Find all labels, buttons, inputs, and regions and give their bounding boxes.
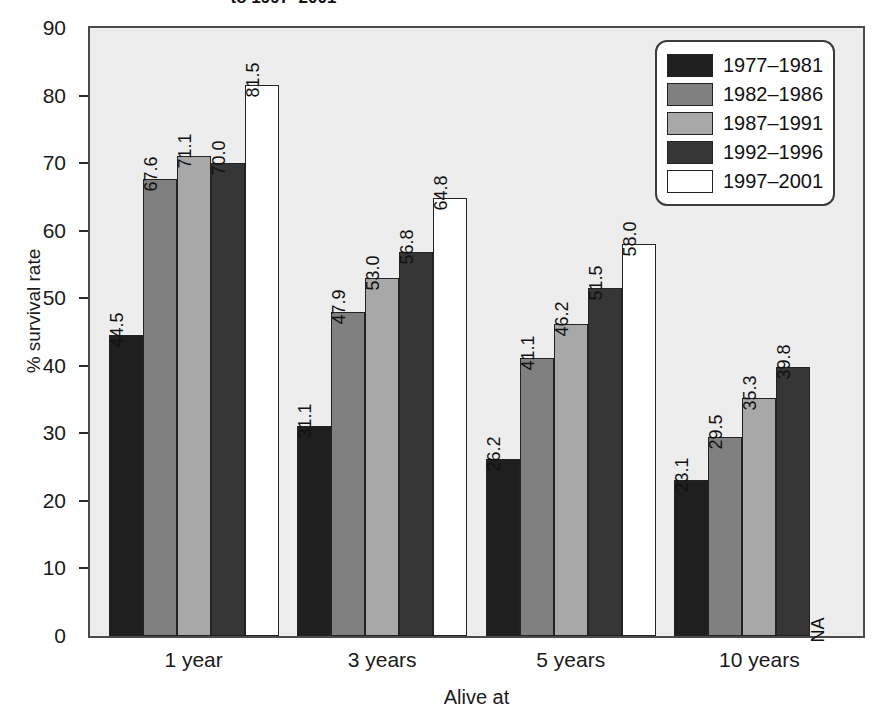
bar-value-label: 70.0 [210, 141, 228, 176]
bar-value-label: 53.0 [364, 255, 382, 290]
bar: 53.0 [365, 278, 399, 636]
bar: 51.5 [588, 288, 622, 636]
na-label: NA [809, 617, 827, 642]
legend-item: 1997–2001 [667, 167, 823, 195]
bar-value-label: 46.2 [553, 301, 571, 336]
y-tick-mark [79, 432, 88, 434]
bar-value-label: 47.9 [330, 290, 348, 325]
bar: 70.0 [211, 163, 245, 636]
bar-value-label: 51.5 [587, 266, 605, 301]
legend-item: 1992–1996 [667, 138, 823, 166]
y-tick-label: 10 [22, 557, 66, 578]
survival-rate-bar-chart: to 1997–2001 % survival rate 01020304050… [0, 0, 877, 714]
x-tick-label: 3 years [302, 648, 462, 672]
bar-value-label: 58.0 [621, 222, 639, 257]
legend-label: 1982–1986 [723, 83, 823, 106]
na-marker: NA [810, 566, 844, 636]
legend-swatch [667, 83, 713, 106]
y-tick-label: 30 [22, 422, 66, 443]
chart-title-clipped: to 1997–2001 [0, 0, 877, 4]
legend-label: 1992–1996 [723, 141, 823, 164]
y-tick-label: 20 [22, 490, 66, 511]
bar: 26.2 [486, 459, 520, 636]
x-tick-label: 1 year [114, 648, 274, 672]
bar-group: 26.241.146.251.558.0 [486, 28, 656, 636]
legend-label: 1977–1981 [723, 54, 823, 77]
bar-value-label: 41.1 [519, 336, 537, 371]
legend-label: 1997–2001 [723, 170, 823, 193]
bar-group: 44.567.671.170.081.5 [109, 28, 279, 636]
bar-value-label: 67.6 [142, 157, 160, 192]
y-tick-mark [79, 162, 88, 164]
bar-value-label: 56.8 [398, 230, 416, 265]
bar: 58.0 [622, 244, 656, 636]
bar-value-label: 39.8 [775, 345, 793, 380]
bar: 81.5 [245, 85, 279, 636]
legend-item: 1982–1986 [667, 80, 823, 108]
x-tick-label: 5 years [491, 648, 651, 672]
bar: 39.8 [776, 367, 810, 636]
y-tick-mark [79, 567, 88, 569]
y-tick-label: 80 [22, 85, 66, 106]
y-tick-mark [79, 230, 88, 232]
legend-item: 1977–1981 [667, 51, 823, 79]
bar: 56.8 [399, 252, 433, 636]
bar: 67.6 [143, 179, 177, 636]
bar: 23.1 [674, 480, 708, 636]
y-tick-mark [79, 95, 88, 97]
legend: 1977–19811982–19861987–19911992–19961997… [655, 40, 835, 206]
bar-value-label: 35.3 [741, 375, 759, 410]
legend-item: 1987–1991 [667, 109, 823, 137]
y-tick-mark [79, 365, 88, 367]
bar: 29.5 [708, 437, 742, 636]
bar-value-label: 23.1 [673, 457, 691, 492]
y-tick-label: 40 [22, 355, 66, 376]
y-tick-label: 90 [22, 17, 66, 38]
legend-swatch [667, 54, 713, 77]
bar-group: 31.147.953.056.864.8 [297, 28, 467, 636]
y-tick-label: 0 [22, 625, 66, 646]
legend-swatch [667, 141, 713, 164]
bar: 31.1 [297, 426, 331, 636]
bar: 71.1 [177, 156, 211, 636]
y-tick-label: 70 [22, 152, 66, 173]
bar-value-label: 81.5 [244, 63, 262, 98]
bar: 44.5 [109, 335, 143, 636]
y-tick-mark [79, 297, 88, 299]
y-axis-ticks: 0102030405060708090 [10, 0, 66, 714]
bar: 41.1 [520, 358, 554, 636]
bar: 35.3 [742, 398, 776, 636]
bar-value-label: 64.8 [432, 176, 450, 211]
y-tick-label: 60 [22, 220, 66, 241]
y-tick-label: 50 [22, 287, 66, 308]
legend-swatch [667, 170, 713, 193]
y-tick-mark [79, 500, 88, 502]
bar: 47.9 [331, 312, 365, 636]
bar-value-label: 71.1 [176, 133, 194, 168]
bar-value-label: 31.1 [296, 403, 314, 438]
bar: 46.2 [554, 324, 588, 636]
legend-swatch [667, 112, 713, 135]
bar-value-label: 29.5 [707, 414, 725, 449]
bar: 64.8 [433, 198, 467, 636]
x-axis-title: Alive at [88, 686, 865, 709]
x-tick-label: 10 years [679, 648, 839, 672]
legend-label: 1987–1991 [723, 112, 823, 135]
bar-value-label: 44.5 [108, 313, 126, 348]
bar-value-label: 26.2 [485, 436, 503, 471]
